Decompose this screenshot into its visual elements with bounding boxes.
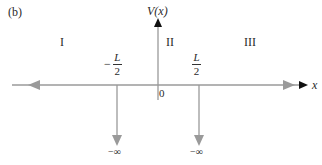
- right-wall-value-label: −∞: [190, 147, 203, 157]
- region-label-i: I: [60, 36, 64, 48]
- fraction-numerator: L: [192, 52, 200, 63]
- x-axis-right-black-arrow-icon: [299, 81, 308, 89]
- x-axis-label: x: [312, 79, 317, 91]
- region-label-iii: III: [244, 36, 256, 48]
- fraction: L 2: [113, 52, 122, 77]
- left-boundary-label: − L 2: [104, 52, 122, 77]
- left-wall-value-label: −∞: [108, 147, 121, 157]
- v-axis-up-arrow-icon: [154, 18, 162, 27]
- minus-sign: −: [104, 57, 111, 72]
- fraction-denominator: 2: [194, 66, 200, 77]
- left-wall-down-arrow-icon: [112, 135, 122, 146]
- x-axis-left-arrow-icon: [28, 80, 40, 90]
- fraction-denominator: 2: [115, 66, 121, 77]
- origin-label: 0: [159, 88, 165, 99]
- right-wall-down-arrow-icon: [194, 135, 204, 146]
- potential-diagram: [0, 0, 322, 165]
- panel-label: (b): [8, 6, 22, 18]
- x-axis-right-gray-arrow-icon: [283, 80, 295, 90]
- fraction-numerator: L: [113, 52, 121, 63]
- region-label-ii: II: [166, 36, 174, 48]
- right-boundary-label: L 2: [192, 52, 201, 77]
- y-axis-label: V(x): [147, 5, 168, 17]
